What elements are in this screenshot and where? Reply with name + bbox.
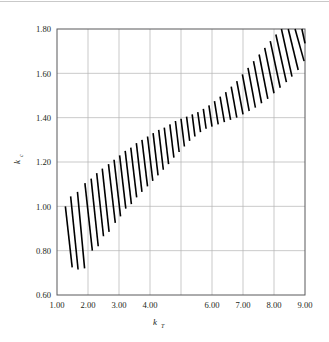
x-axis-tick-labels: 1.002.003.004.006.007.008.009.00 [49,300,312,310]
y-axis-title-subscript: c [18,154,24,157]
xy-scatter-band-chart: 1.002.003.004.006.007.008.009.00 0.600.8… [0,0,329,342]
x-tick-label: 4.00 [142,300,157,310]
hatch-stroke [226,92,231,120]
hatch-stroke [97,173,104,236]
x-tick-label: 9.00 [297,300,312,310]
hatched-band-region [65,29,305,270]
hatch-stroke [120,155,126,208]
x-axis-title: k T [153,317,165,329]
hatch-stroke [209,105,212,126]
hatch-stroke [77,192,84,268]
hatch-stroke [91,179,98,247]
y-tick-label: 1.40 [36,113,51,123]
x-tick-label: 3.00 [111,300,126,310]
hatch-stroke [65,206,72,267]
y-tick-label: 1.00 [36,202,51,212]
hatch-stroke [220,97,224,122]
hatch-stroke [175,121,179,152]
y-tick-label: 0.60 [36,290,51,300]
hatch-stroke [198,112,201,132]
x-tick-label: 2.00 [80,300,95,310]
hatch-stroke [170,124,174,157]
y-axis-tick-labels: 0.600.801.001.201.401.601.80 [36,24,51,300]
x-tick-label: 8.00 [266,300,281,310]
hatch-stroke [131,148,137,198]
hatch-stroke [125,151,131,204]
hatch-stroke [181,119,184,147]
x-tick-label: 7.00 [235,300,250,310]
hatch-stroke [254,61,262,103]
hatch-stroke [102,169,109,232]
hatch-stroke [159,130,164,170]
y-axis-title-base: k [12,159,22,164]
y-tick-label: 1.20 [36,157,51,167]
hatch-stroke [164,128,168,165]
y-tick-label: 1.60 [36,69,51,79]
chart-figure: 1.002.003.004.006.007.008.009.00 0.600.8… [0,0,329,342]
hatch-stroke [203,109,206,129]
x-axis-title-base: k [153,317,158,327]
hatch-stroke [142,140,148,187]
hatch-stroke [136,143,142,192]
x-tick-label: 1.00 [49,300,64,310]
y-tick-label: 1.80 [36,24,51,34]
hatch-stroke [242,74,249,111]
hatch-stroke [231,87,237,118]
hatch-stroke [114,160,121,217]
hatch-stroke [153,133,158,175]
hatch-stroke [214,101,218,124]
hatch-stroke [237,81,243,114]
x-axis-title-subscript: T [161,323,165,329]
hatch-stroke [248,68,255,108]
hatch-stroke [187,117,190,141]
y-tick-label: 0.80 [36,246,51,256]
y-axis-title: k c [12,154,24,164]
hatch-stroke [259,54,268,98]
x-tick-label: 6.00 [204,300,219,310]
hatch-stroke [85,183,92,251]
page-top-rule [0,1,329,2]
hatch-stroke [108,164,115,223]
